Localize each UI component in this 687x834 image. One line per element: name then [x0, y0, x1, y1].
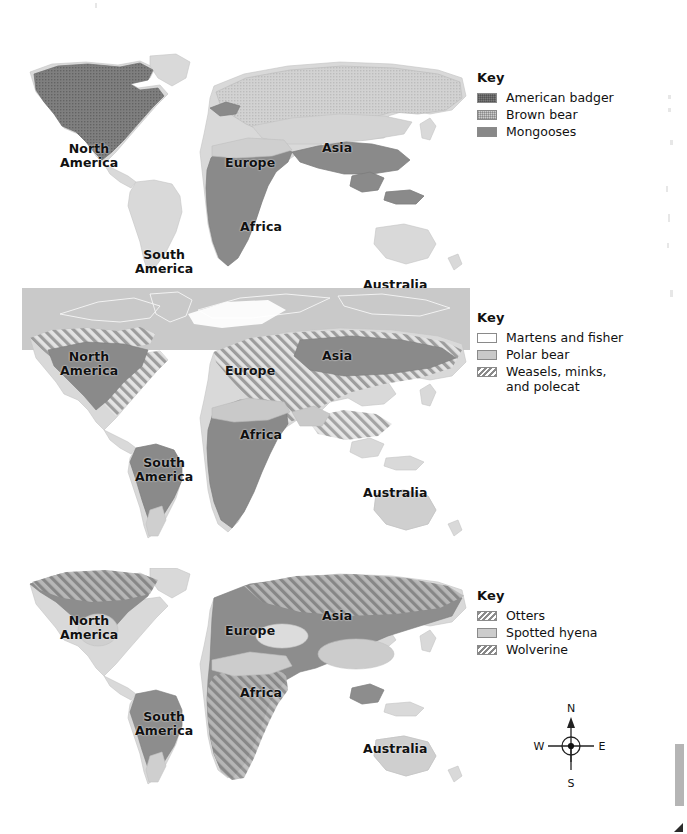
key-map-2: Key Martens and fisher Polar bear Weasel…: [477, 310, 682, 396]
swatch-brown-bear: [477, 110, 497, 120]
compass-south-label: S: [568, 777, 575, 790]
swatch-otters: [477, 611, 497, 621]
scan-artifact: [666, 186, 668, 192]
map-1-canvas: [0, 52, 470, 280]
map-american-badger-brown-bear-mongooses: North AmericaSouth AmericaEuropeAsiaAfri…: [0, 52, 470, 280]
scan-artifact: [670, 290, 673, 297]
key-label-polar-bear: Polar bear: [506, 347, 569, 362]
key-label-wolverine: Wolverine: [506, 642, 568, 657]
key-label-mongooses: Mongooses: [506, 124, 576, 139]
swatch-wolverine: [477, 645, 497, 655]
map-otters-hyena-wolverine: North AmericaSouth AmericaEuropeAsiaAfri…: [0, 568, 470, 810]
key-title: Key: [477, 310, 682, 325]
key-label-weasels-minks-polecat: Weasels, minks, and polecat: [506, 364, 606, 394]
swatch-polar-bear: [477, 350, 497, 360]
map-3-canvas: [0, 568, 470, 810]
key-entry: Otters: [477, 608, 682, 623]
key-title: Key: [477, 70, 682, 85]
key-entry: Brown bear: [477, 107, 682, 122]
key-entry: Martens and fisher: [477, 330, 682, 345]
key-entry: Weasels, minks, and polecat: [477, 364, 682, 394]
range-american-badger: [34, 63, 164, 160]
swatch-american-badger: [477, 93, 497, 103]
map-2-canvas: [0, 288, 470, 546]
page-edge-strip: [675, 744, 684, 806]
key-entry: American badger: [477, 90, 682, 105]
key-map-3: Key Otters Spotted hyena Wolverine: [477, 588, 682, 659]
range-africa-hatched: [207, 666, 288, 780]
north-arrow-icon: [567, 717, 575, 728]
key-title: Key: [477, 588, 682, 603]
key-label-martens-and-fisher: Martens and fisher: [506, 330, 623, 345]
map-martens-polarbear-weasels: North AmericaSouth AmericaEuropeAsiaAfri…: [0, 288, 470, 546]
compass-north-label: N: [567, 702, 575, 715]
scan-artifact: [667, 243, 669, 248]
compass-rose: N E S W: [528, 700, 614, 792]
scan-artifact: [668, 214, 670, 222]
swatch-mongooses: [477, 127, 497, 137]
key-entry: Polar bear: [477, 347, 682, 362]
key-entry: Mongooses: [477, 124, 682, 139]
key-label-american-badger: American badger: [506, 90, 614, 105]
swatch-spotted-hyena: [477, 628, 497, 638]
key-map-1: Key American badger Brown bear Mongooses: [477, 70, 682, 141]
key-label-brown-bear: Brown bear: [506, 107, 578, 122]
compass-east-label: E: [599, 740, 606, 753]
key-entry: Wolverine: [477, 642, 682, 657]
key-label-spotted-hyena: Spotted hyena: [506, 625, 598, 640]
compass-west-label: W: [534, 740, 545, 753]
swatch-martens-and-fisher: [477, 333, 497, 343]
swatch-weasels-minks-polecat: [477, 367, 497, 377]
scan-artifact: [95, 3, 97, 8]
key-entry: Spotted hyena: [477, 625, 682, 640]
key-label-otters: Otters: [506, 608, 545, 623]
figure-page: North AmericaSouth AmericaEuropeAsiaAfri…: [0, 0, 687, 834]
page-corner-mark: [674, 823, 683, 832]
